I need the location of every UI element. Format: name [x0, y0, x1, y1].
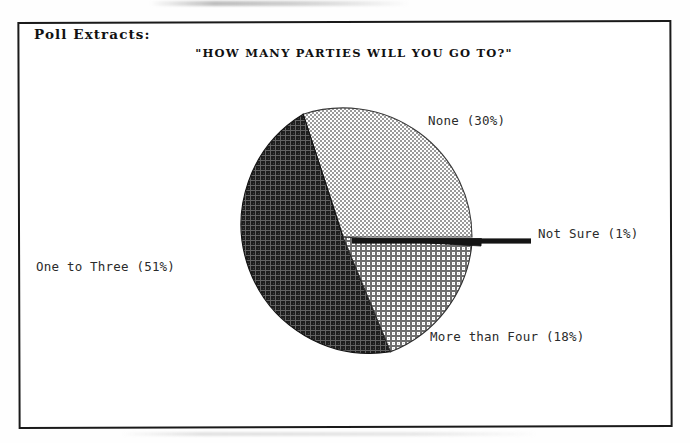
- pie-label-one-to-three: One to Three (51%): [36, 259, 175, 274]
- pie-label-more-than-four: More than Four (18%): [430, 329, 585, 344]
- page-title: Poll Extracts:: [34, 26, 151, 42]
- scan-smudge-top: [150, 1, 410, 6]
- scan-smudge-bottom: [120, 432, 540, 436]
- chart-frame: [17, 20, 672, 429]
- pie-label-none: None (30%): [428, 113, 505, 128]
- chart-title: "HOW MANY PARTIES WILL YOU GO TO?": [0, 46, 690, 60]
- pie-label-not-sure: Not Sure (1%): [538, 226, 638, 241]
